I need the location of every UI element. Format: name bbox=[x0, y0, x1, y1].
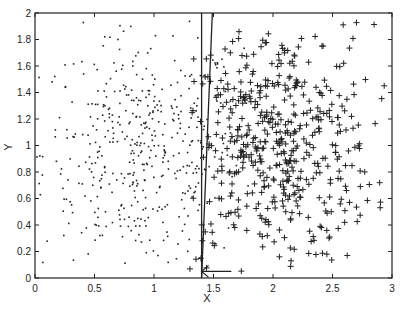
x-tick-label: 1 bbox=[151, 283, 157, 294]
x-tick-label: 3 bbox=[389, 283, 395, 294]
x-tick-label: 0 bbox=[32, 283, 38, 294]
y-tick-label: 0.4 bbox=[17, 220, 31, 231]
y-tick-label: 0.8 bbox=[17, 167, 31, 178]
x-tick-label: 2.5 bbox=[326, 283, 340, 294]
x-axis-label: X bbox=[203, 292, 211, 304]
y-axis-label: Y bbox=[2, 143, 14, 151]
boundary-lines bbox=[202, 13, 232, 278]
y-tick-label: 0 bbox=[25, 273, 31, 284]
series-class-plus bbox=[187, 20, 387, 274]
left-arrow-icon bbox=[202, 265, 232, 277]
y-tick-label: 1.8 bbox=[17, 34, 31, 45]
data-points bbox=[36, 20, 387, 274]
series-class-dot bbox=[36, 21, 249, 264]
y-tick-label: 1 bbox=[25, 140, 31, 151]
y-tick-label: 2 bbox=[25, 8, 31, 19]
x-tick-label: 2 bbox=[270, 283, 276, 294]
scatter-chart: 00.511.522.53 00.20.40.60.811.21.41.61.8… bbox=[0, 0, 404, 309]
y-tick-label: 0.2 bbox=[17, 246, 31, 257]
y-tick-label: 0.6 bbox=[17, 193, 31, 204]
x-tick-label: 0.5 bbox=[88, 283, 102, 294]
y-tick-label: 1.4 bbox=[17, 87, 31, 98]
y-tick-label: 1.2 bbox=[17, 114, 31, 125]
y-tick-label: 1.6 bbox=[17, 61, 31, 72]
